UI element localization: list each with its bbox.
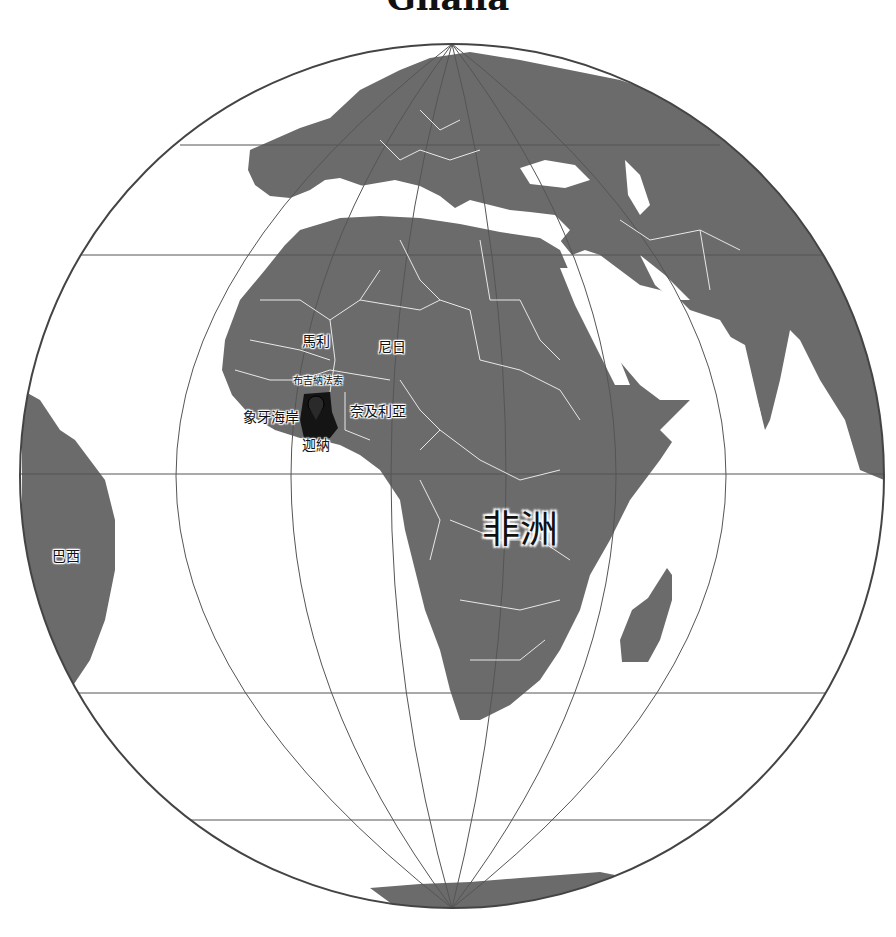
label-mali: 馬利 [302, 330, 330, 350]
label-burkina-faso: 布吉納法索 [293, 372, 343, 387]
label-africa: 非洲 [482, 498, 558, 553]
label-nigeria: 奈及利亞 [350, 400, 406, 420]
label-niger: 尼日 [378, 336, 406, 356]
label-brazil: 巴西 [52, 545, 80, 565]
label-ghana: 迦納 [302, 434, 330, 454]
label-ivory-coast: 象牙海岸 [243, 406, 299, 426]
globe-map [0, 0, 896, 937]
